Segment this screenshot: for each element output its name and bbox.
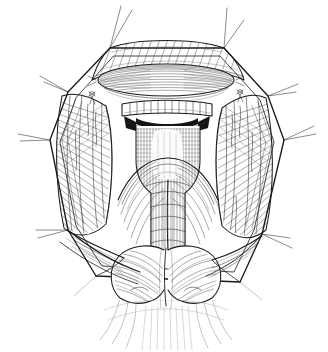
illustration-canvas [0,0,328,352]
illustration-figure [0,0,328,352]
